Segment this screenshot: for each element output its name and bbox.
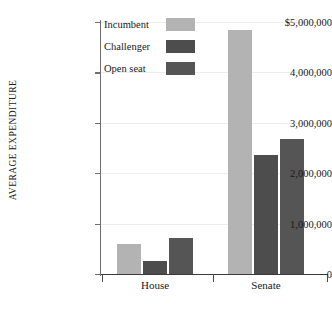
- y-axis-line: [100, 20, 101, 276]
- x-axis-separator-tick: [213, 275, 214, 282]
- y-axis-tick-label: 0: [240, 269, 332, 280]
- legend-color-swatch: [166, 18, 195, 31]
- x-axis-group-label: House: [115, 279, 195, 291]
- y-axis-tick-label: 1,000,000: [240, 218, 332, 229]
- bar: [143, 261, 167, 274]
- y-axis-tick-mark: [95, 72, 101, 73]
- y-axis-tick-mark: [95, 274, 101, 275]
- y-axis-tick-label: 2,000,000: [240, 168, 332, 179]
- legend-item-label: Challenger: [104, 41, 166, 52]
- bar: [117, 244, 141, 274]
- bar: [280, 139, 304, 274]
- legend-color-swatch: [166, 62, 195, 75]
- legend-item: Incumbent: [104, 13, 195, 35]
- y-axis-tick-mark: [95, 22, 101, 23]
- y-axis-title-label: AVERAGE EXPENDITURE: [8, 80, 18, 201]
- bar-chart: AVERAGE EXPENDITURE $5,000,0004,000,0003…: [0, 0, 332, 311]
- y-axis-tick-mark: [95, 224, 101, 225]
- y-axis-tick-mark: [95, 123, 101, 124]
- legend: IncumbentChallengerOpen seat: [104, 13, 195, 79]
- y-axis-tick-label: 4,000,000: [240, 67, 332, 78]
- legend-item-label: Incumbent: [104, 19, 166, 30]
- legend-color-swatch: [166, 40, 195, 53]
- y-axis-tick-mark: [95, 173, 101, 174]
- y-axis-tick-label: 3,000,000: [240, 117, 332, 128]
- x-axis-group-label: Senate: [226, 279, 306, 291]
- x-axis-separator-tick: [327, 275, 328, 282]
- legend-item-label: Open seat: [104, 63, 166, 74]
- y-axis-title: AVERAGE EXPENDITURE: [0, 0, 26, 280]
- x-axis-separator-tick: [102, 275, 103, 282]
- legend-item: Open seat: [104, 57, 195, 79]
- bar: [169, 238, 193, 274]
- y-axis-tick-label: $5,000,000: [240, 17, 332, 28]
- legend-item: Challenger: [104, 35, 195, 57]
